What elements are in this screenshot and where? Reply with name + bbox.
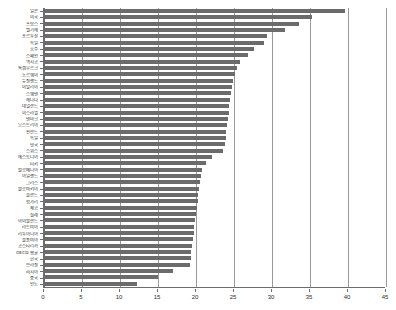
y-axis-label: 체코	[0, 206, 41, 210]
y-axis-label: 네덜란드	[0, 104, 41, 108]
y-axis-label: 오스트리아	[0, 123, 41, 127]
y-axis-label: 뉴질랜드	[0, 79, 41, 83]
bar	[44, 250, 191, 254]
y-axis-label: 아이슬란드	[0, 219, 41, 223]
y-axis-label: 중국	[0, 276, 41, 280]
bar-row	[44, 187, 385, 191]
y-axis-label: 포르투갈	[0, 34, 41, 38]
bar-row	[44, 79, 385, 83]
bar-row	[44, 275, 385, 279]
bar	[44, 91, 231, 95]
bar	[44, 218, 195, 222]
bar	[44, 28, 285, 32]
bar-row	[44, 60, 385, 64]
bar	[44, 117, 228, 121]
bar	[44, 237, 193, 241]
bar	[44, 256, 191, 260]
bar-row	[44, 123, 385, 127]
y-axis-label: 아일랜드	[0, 174, 41, 178]
x-axis-label-45: 45	[382, 294, 389, 300]
x-axis-label-30: 30	[268, 294, 275, 300]
y-axis-label: 라트비아	[0, 225, 41, 229]
bar	[44, 269, 173, 273]
bar-row	[44, 225, 385, 229]
bar-row	[44, 15, 385, 19]
x-axis-tick-25	[233, 289, 234, 292]
y-axis-label: 브라질	[0, 263, 41, 267]
bar	[44, 275, 158, 279]
bar-row	[44, 47, 385, 51]
y-axis-label: 노르웨이	[0, 73, 41, 77]
bar-row	[44, 53, 385, 57]
y-axis-label: 덴마크	[0, 117, 41, 121]
bar-row	[44, 212, 385, 216]
bar-row	[44, 98, 385, 102]
bar	[44, 263, 190, 267]
x-axis-label-40: 40	[344, 294, 351, 300]
bar-row	[44, 168, 385, 172]
bar-row	[44, 85, 385, 89]
y-axis-label: 캐나다	[0, 98, 41, 102]
x-axis-tick-5	[81, 289, 82, 292]
bar	[44, 174, 201, 178]
bar-row	[44, 250, 385, 254]
bar	[44, 168, 202, 172]
y-axis-label: 리투아니아	[0, 232, 41, 236]
bar-row	[44, 130, 385, 134]
bar	[44, 136, 226, 140]
x-axis-tick-0	[43, 289, 44, 292]
bar	[44, 85, 232, 89]
y-axis-label: 스웨덴	[0, 92, 41, 96]
bar-row	[44, 34, 385, 38]
y-axis-label: 에스토니아	[0, 155, 41, 159]
bar	[44, 15, 312, 19]
x-axis-tick-15	[157, 289, 158, 292]
bar-row	[44, 269, 385, 273]
bar	[44, 41, 264, 45]
bar	[44, 130, 226, 134]
x-axis-label-0: 0	[41, 294, 44, 300]
y-axis-label: 핀란드	[0, 130, 41, 134]
y-axis-label: 그리스	[0, 181, 41, 185]
bar	[44, 193, 198, 197]
x-axis-label-25: 25	[230, 294, 237, 300]
bar-row	[44, 117, 385, 121]
y-axis-label: 한국	[0, 257, 41, 261]
y-axis-label: 멕시코	[0, 60, 41, 64]
y-axis-label: 영국	[0, 143, 41, 147]
y-axis-label: 프랑스	[0, 22, 41, 26]
y-axis-label: 스위스	[0, 149, 41, 153]
y-axis-label: 슬로베니아	[0, 168, 41, 172]
bar-row	[44, 41, 385, 45]
bar-row	[44, 136, 385, 140]
y-axis-label: 독일	[0, 41, 41, 45]
bar	[44, 111, 229, 115]
bar-row	[44, 66, 385, 70]
x-axis-tick-40	[347, 289, 348, 292]
x-axis-label-15: 15	[154, 294, 161, 300]
bar-row	[44, 282, 385, 286]
bar	[44, 225, 194, 229]
bar	[44, 104, 229, 108]
bar-row	[44, 28, 385, 32]
bar-row	[44, 111, 385, 115]
x-axis: 051015202530354045	[43, 289, 385, 307]
bar	[44, 98, 230, 102]
bar-chart: 일본미국프랑스벨기에포르투갈독일호주스페인멕시코룩셈부르크노르웨이뉴질랜드이탈리…	[0, 0, 396, 310]
y-axis-label: 이스라엘	[0, 111, 41, 115]
bar-row	[44, 180, 385, 184]
y-axis-label: 벨기에	[0, 28, 41, 32]
x-axis-label-10: 10	[116, 294, 123, 300]
x-axis-tick-35	[309, 289, 310, 292]
bar	[44, 199, 198, 203]
bar	[44, 47, 254, 51]
plot-area	[43, 8, 385, 288]
y-axis-label: 콜롬비아	[0, 238, 41, 242]
x-axis-tick-45	[385, 289, 386, 292]
bar	[44, 34, 267, 38]
x-axis-label-5: 5	[79, 294, 82, 300]
y-axis-label: 칠레	[0, 213, 41, 217]
bar-row	[44, 9, 385, 13]
bar	[44, 206, 197, 210]
y-axis-label: 호주	[0, 47, 41, 51]
